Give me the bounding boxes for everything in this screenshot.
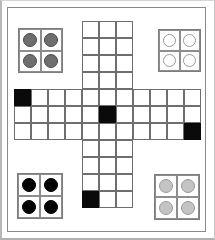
token-slot-top-left-0[interactable]	[19, 29, 41, 51]
token-group-bottom-right[interactable]	[154, 174, 200, 220]
token-black-icon	[44, 200, 58, 214]
board-cell-8-6[interactable]	[116, 157, 133, 174]
token-black-icon	[22, 200, 36, 214]
board-cell-4-6[interactable]	[116, 89, 133, 106]
board-cell-5-0[interactable]	[14, 106, 31, 123]
board-cell-4-10[interactable]	[184, 89, 201, 106]
token-light-gray-icon	[159, 201, 173, 215]
board-cell-5-8[interactable]	[150, 106, 167, 123]
token-light-gray-icon	[181, 201, 195, 215]
token-slot-top-right-3[interactable]	[180, 51, 201, 72]
token-light-gray-icon	[159, 179, 173, 193]
token-white-icon	[163, 34, 176, 47]
token-white-icon	[163, 54, 176, 67]
board-cell-9-5[interactable]	[99, 174, 116, 191]
board-cell-2-5[interactable]	[99, 55, 116, 72]
board-cell-6-9[interactable]	[167, 123, 184, 140]
board-cell-6-8[interactable]	[150, 123, 167, 140]
board-cell-0-4[interactable]	[82, 21, 99, 38]
token-slot-bottom-left-2[interactable]	[18, 196, 40, 218]
board-cell-5-3[interactable]	[65, 106, 82, 123]
token-slot-top-left-2[interactable]	[19, 51, 41, 73]
board-cell-2-6[interactable]	[116, 55, 133, 72]
token-white-icon	[183, 34, 196, 47]
board-cell-9-6[interactable]	[116, 174, 133, 191]
token-group-top-left[interactable]	[18, 28, 63, 73]
token-slot-bottom-right-3[interactable]	[177, 197, 199, 219]
board-cell-5-9[interactable]	[167, 106, 184, 123]
board-cell-3-6[interactable]	[116, 72, 133, 89]
board-cell-6-5[interactable]	[99, 123, 116, 140]
board-cell-9-4[interactable]	[82, 174, 99, 191]
board-cell-8-4[interactable]	[82, 157, 99, 174]
token-slot-top-left-1[interactable]	[41, 29, 63, 51]
board-cell-7-6[interactable]	[116, 140, 133, 157]
board-cell-4-1[interactable]	[31, 89, 48, 106]
board-cell-5-2[interactable]	[48, 106, 65, 123]
board-cell-0-6[interactable]	[116, 21, 133, 38]
token-slot-bottom-right-1[interactable]	[177, 175, 199, 197]
board-cell-7-5[interactable]	[99, 140, 116, 157]
board-cell-filled-center[interactable]	[99, 106, 116, 123]
board-cell-4-8[interactable]	[150, 89, 167, 106]
board-cell-3-5[interactable]	[99, 72, 116, 89]
board-cell-7-4[interactable]	[82, 140, 99, 157]
board-cell-5-1[interactable]	[31, 106, 48, 123]
token-slot-top-left-3[interactable]	[41, 51, 63, 73]
token-dark-gray-icon	[23, 54, 37, 68]
board-cell-5-7[interactable]	[133, 106, 150, 123]
board-cell-6-3[interactable]	[65, 123, 82, 140]
board-cell-6-2[interactable]	[48, 123, 65, 140]
token-slot-bottom-left-1[interactable]	[40, 174, 62, 196]
board-cell-8-5[interactable]	[99, 157, 116, 174]
board-cell-4-3[interactable]	[65, 89, 82, 106]
board-cell-10-5[interactable]	[99, 191, 116, 208]
board-cell-1-6[interactable]	[116, 38, 133, 55]
board-cell-4-2[interactable]	[48, 89, 65, 106]
board-cell-6-1[interactable]	[31, 123, 48, 140]
board-cell-5-6[interactable]	[116, 106, 133, 123]
board-cell-10-6[interactable]	[116, 191, 133, 208]
token-slot-bottom-right-0[interactable]	[155, 175, 177, 197]
token-white-icon	[183, 54, 196, 67]
board-cell-6-6[interactable]	[116, 123, 133, 140]
token-slot-bottom-left-0[interactable]	[18, 174, 40, 196]
board-cell-6-0[interactable]	[14, 123, 31, 140]
board-cell-4-9[interactable]	[167, 89, 184, 106]
board-cell-1-5[interactable]	[99, 38, 116, 55]
token-slot-bottom-right-2[interactable]	[155, 197, 177, 219]
board-cell-5-4[interactable]	[82, 106, 99, 123]
board-cell-2-4[interactable]	[82, 55, 99, 72]
token-slot-bottom-left-3[interactable]	[40, 196, 62, 218]
token-black-icon	[22, 178, 36, 192]
board-cell-4-7[interactable]	[133, 89, 150, 106]
board-cell-1-4[interactable]	[82, 38, 99, 55]
token-slot-top-right-2[interactable]	[159, 51, 180, 72]
token-dark-gray-icon	[44, 54, 58, 68]
board-cell-4-5[interactable]	[99, 89, 116, 106]
board-cell-filled-right-arm-bottom[interactable]	[184, 123, 201, 140]
board-cell-4-4[interactable]	[82, 89, 99, 106]
token-group-bottom-left[interactable]	[17, 173, 63, 219]
token-dark-gray-icon	[44, 33, 58, 47]
board-cell-filled-bottom-arm-left[interactable]	[82, 191, 99, 208]
token-slot-top-right-1[interactable]	[180, 30, 201, 51]
board-cell-0-5[interactable]	[99, 21, 116, 38]
token-group-top-right[interactable]	[158, 29, 201, 72]
token-light-gray-icon	[181, 179, 195, 193]
board-cell-3-4[interactable]	[82, 72, 99, 89]
board-cell-filled-left-arm-top[interactable]	[14, 89, 31, 106]
puzzle-figure	[0, 0, 215, 240]
board-cell-5-10[interactable]	[184, 106, 201, 123]
board-cell-6-7[interactable]	[133, 123, 150, 140]
token-dark-gray-icon	[23, 33, 37, 47]
token-slot-top-right-0[interactable]	[159, 30, 180, 51]
token-black-icon	[44, 178, 58, 192]
board-cell-6-4[interactable]	[82, 123, 99, 140]
